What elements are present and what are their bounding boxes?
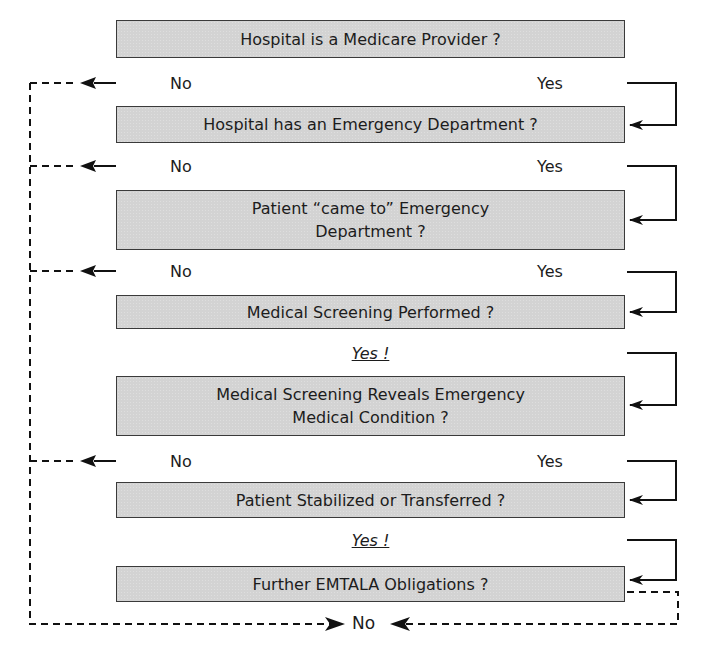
branch-no-label: No xyxy=(170,74,192,94)
box-label: Further EMTALA Obligations ? xyxy=(253,573,489,596)
branch-yes-label: Yes xyxy=(537,452,563,472)
branch-yes-label: Yes xyxy=(537,157,563,177)
branch-yes-label: Yes xyxy=(537,262,563,282)
branch-no-label: No xyxy=(170,157,192,177)
terminal-no-label: No xyxy=(352,613,375,633)
decision-box-screening-performed: Medical Screening Performed ? xyxy=(116,295,625,329)
decision-box-came-to-ed: Patient “came to” Emergency Department ? xyxy=(116,190,625,250)
box-label: Medical Screening Reveals Emergency Medi… xyxy=(186,383,556,429)
branch-emphatic-yes-label: Yes ! xyxy=(0,344,701,364)
box-label: Hospital has an Emergency Department ? xyxy=(203,113,538,136)
box-label: Hospital is a Medicare Provider ? xyxy=(240,28,501,51)
box-label: Medical Screening Performed ? xyxy=(247,301,495,324)
decision-box-has-emergency-department: Hospital has an Emergency Department ? xyxy=(116,106,625,143)
decision-box-medicare-provider: Hospital is a Medicare Provider ? xyxy=(116,20,625,58)
decision-box-further-obligations: Further EMTALA Obligations ? xyxy=(116,566,625,602)
branch-no-label: No xyxy=(170,452,192,472)
branch-emphatic-yes-label: Yes ! xyxy=(0,531,701,551)
decision-box-stabilized-or-transferred: Patient Stabilized or Transferred ? xyxy=(116,482,625,518)
box-label: Patient Stabilized or Transferred ? xyxy=(236,489,505,512)
decision-box-emergency-condition: Medical Screening Reveals Emergency Medi… xyxy=(116,376,625,436)
branch-no-label: No xyxy=(170,262,192,282)
branch-yes-label: Yes xyxy=(537,74,563,94)
box-label: Patient “came to” Emergency Department ? xyxy=(231,197,511,243)
